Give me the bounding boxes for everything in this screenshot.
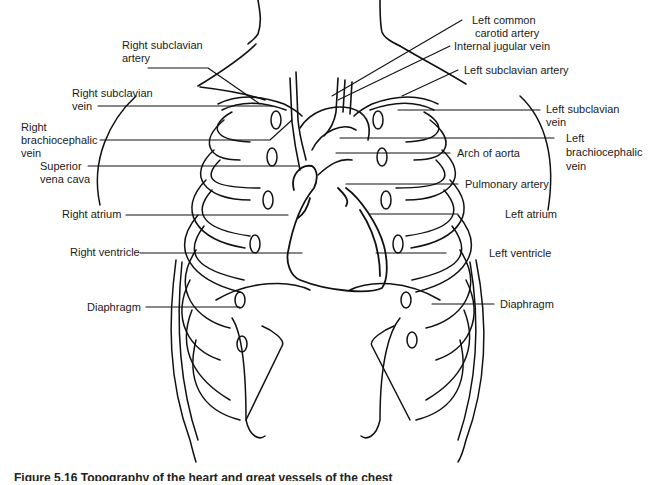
label-line: Right [21,121,97,134]
rib-ends-right-side [235,111,283,420]
label-left-common-carotid-artery: Left common carotid artery [472,14,539,40]
label-right-brachiocephalic-vein: Right brachiocephalic vein [21,121,97,160]
label-line: Right subclavian [122,39,203,52]
label-pulmonary-artery: Pulmonary artery [465,178,549,191]
label-line: brachiocephalic [21,134,97,147]
label-left-atrium: Left atrium [505,208,557,221]
label-superior-vena-cava: Superior vena cava [40,160,90,186]
neck-outline [198,0,466,86]
label-line: Left subclavian [546,103,619,116]
label-right-ventricle: Right ventricle [70,246,140,259]
label-line: Diaphragm [500,298,554,311]
label-line: Left atrium [505,208,557,221]
label-line: Diaphragm [87,301,141,314]
label-line: brachiocephalic [566,145,642,159]
label-line: Left subclavian artery [464,64,569,77]
label-right-subclavian-artery: Right subclavian artery [122,39,203,65]
figure-caption: Figure 5.16 Topography of the heart and … [14,471,393,481]
label-diaphragm-right: Diaphragm [87,301,141,314]
label-right-atrium: Right atrium [62,208,121,221]
heart [288,166,387,291]
label-line: Right subclavian [72,87,153,100]
label-internal-jugular-vein: Internal jugular vein [454,40,550,53]
great-vessels [290,72,369,175]
label-line: Superior [40,160,90,173]
label-diaphragm-left: Diaphragm [500,298,554,311]
label-line: vena cava [40,173,90,186]
label-line: Right ventricle [70,246,140,259]
label-line: Internal jugular vein [454,40,550,53]
label-line: Left common [472,14,539,27]
label-left-ventricle: Left ventricle [489,247,551,260]
label-line: artery [122,52,203,65]
label-line: vein [566,159,642,173]
label-left-subclavian-artery: Left subclavian artery [464,64,569,77]
clavicles [218,97,438,116]
label-line: Left [566,131,642,145]
label-left-subclavian-vein: Left subclavian vein [546,103,619,129]
label-line: Right atrium [62,208,121,221]
label-line: vein [21,147,97,160]
label-left-brachiocephalic-vein: Left brachiocephalic vein [566,131,642,173]
label-line: Arch of aorta [457,147,520,160]
label-right-subclavian-vein: Right subclavian vein [72,87,153,113]
label-arch-of-aorta: Arch of aorta [457,147,520,160]
label-line: Pulmonary artery [465,178,549,191]
label-line: vein [72,100,153,113]
label-line: Left ventricle [489,247,551,260]
label-line: vein [546,116,619,129]
label-line: carotid artery [472,27,539,40]
rib-ends-left-side [371,111,417,420]
